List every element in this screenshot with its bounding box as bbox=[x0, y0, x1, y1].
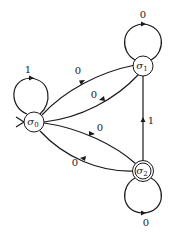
arrowhead-icon bbox=[89, 131, 95, 136]
edge-label: 0 bbox=[143, 217, 149, 228]
edge-label: 0 bbox=[72, 157, 78, 168]
edge-s0-s0: 1 bbox=[14, 64, 48, 114]
arrowhead-icon bbox=[141, 22, 146, 27]
edge-s0-s2: 0 bbox=[44, 122, 136, 164]
edge-s2-s2: 0 bbox=[125, 178, 162, 228]
edge-s2-s1: 1 bbox=[141, 76, 155, 161]
state-diagram: 1 0 0 0 0 0 1 0 bbox=[0, 0, 173, 234]
edge-label: 1 bbox=[148, 115, 154, 126]
state-s1: σ1 bbox=[133, 56, 153, 76]
arrowhead-icon bbox=[141, 117, 146, 122]
edge-label: 0 bbox=[140, 9, 146, 20]
edge-s1-s1: 0 bbox=[125, 9, 162, 60]
state-s2: σ2 bbox=[133, 161, 154, 182]
edge-s1-s0: 0 bbox=[44, 74, 139, 122]
start-arrow bbox=[16, 117, 24, 127]
arrowhead-icon bbox=[99, 96, 105, 101]
arrowhead-icon bbox=[29, 76, 34, 81]
arrowhead-icon bbox=[141, 211, 146, 216]
state-s0: σ0 bbox=[24, 112, 44, 132]
edge-label: 1 bbox=[25, 64, 31, 75]
edge-label: 0 bbox=[91, 89, 97, 100]
edge-label: 0 bbox=[75, 65, 81, 76]
edge-label: 0 bbox=[97, 122, 103, 133]
